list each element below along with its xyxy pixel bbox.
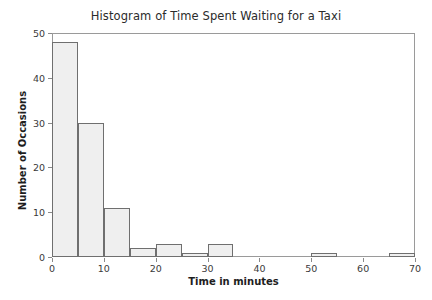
x-axis-tick-mark bbox=[156, 258, 157, 262]
histogram-bar bbox=[104, 208, 130, 257]
histogram-bar bbox=[389, 253, 415, 257]
histogram-bar bbox=[208, 244, 234, 257]
y-axis-tick-mark bbox=[48, 33, 52, 34]
x-axis-tick-label: 20 bbox=[150, 263, 162, 274]
x-axis-tick-label: 50 bbox=[305, 263, 317, 274]
x-axis-tick-mark bbox=[363, 258, 364, 262]
histogram-bar bbox=[182, 253, 208, 257]
y-axis-tick-mark bbox=[48, 167, 52, 168]
x-axis-tick-label: 40 bbox=[253, 263, 265, 274]
x-axis-tick-mark bbox=[104, 258, 105, 262]
x-axis-tick-label: 70 bbox=[409, 263, 421, 274]
histogram-bar bbox=[78, 123, 104, 257]
histogram-screenshot: Histogram of Time Spent Waiting for a Ta… bbox=[0, 0, 432, 300]
histogram-bar bbox=[52, 42, 78, 257]
histogram-bar bbox=[130, 248, 156, 257]
y-axis-title: Number of Occasions bbox=[17, 76, 28, 226]
chart-title: Histogram of Time Spent Waiting for a Ta… bbox=[0, 9, 432, 23]
histogram-bar bbox=[311, 253, 337, 257]
plot-area bbox=[52, 33, 415, 257]
x-axis-tick-label: 0 bbox=[49, 263, 55, 274]
y-axis-tick-label: 0 bbox=[21, 252, 45, 263]
x-axis-tick-mark bbox=[259, 258, 260, 262]
x-axis-tick-label: 10 bbox=[98, 263, 110, 274]
x-axis-tick-mark bbox=[208, 258, 209, 262]
y-axis-tick-label: 50 bbox=[21, 28, 45, 39]
x-axis-title: Time in minutes bbox=[52, 276, 415, 287]
x-axis-tick-label: 60 bbox=[357, 263, 369, 274]
histogram-bar bbox=[156, 244, 182, 257]
x-axis-tick-mark bbox=[311, 258, 312, 262]
y-axis-tick-mark bbox=[48, 123, 52, 124]
y-axis-tick-mark bbox=[48, 78, 52, 79]
x-axis-tick-mark bbox=[52, 258, 53, 262]
y-axis-tick-mark bbox=[48, 212, 52, 213]
x-axis-tick-label: 30 bbox=[202, 263, 214, 274]
y-axis-tick-mark bbox=[48, 257, 52, 258]
x-axis-tick-mark bbox=[415, 258, 416, 262]
